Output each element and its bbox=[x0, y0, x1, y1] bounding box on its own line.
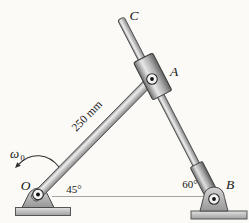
pin-o-dot bbox=[36, 193, 40, 197]
pin-a bbox=[147, 74, 158, 85]
label-point-b: B bbox=[226, 177, 234, 192]
ground-plate-b bbox=[191, 211, 247, 219]
ground-plate-o bbox=[16, 208, 71, 216]
bar-oa-group bbox=[30, 73, 158, 202]
label-point-c: C bbox=[129, 8, 139, 23]
angle-label-o: 45° bbox=[66, 183, 81, 195]
omega-label: ω bbox=[10, 146, 19, 161]
label-point-o: O bbox=[21, 178, 31, 193]
omega-subscript-label: 0 bbox=[21, 153, 25, 163]
bar-oa bbox=[30, 73, 158, 202]
pin-a-dot bbox=[150, 77, 154, 81]
pin-b-dot bbox=[212, 197, 216, 201]
pin-b bbox=[209, 194, 220, 205]
rod-bc-group bbox=[115, 15, 222, 204]
angle-label-b: 60° bbox=[182, 178, 197, 190]
pin-o bbox=[33, 189, 44, 200]
figure-canvas: C A O B 45° 60° 250 mm ω 0 bbox=[0, 0, 249, 223]
mechanism-figure: C A O B 45° 60° 250 mm ω 0 bbox=[0, 0, 249, 223]
omega-arrow-arc bbox=[19, 156, 59, 167]
label-point-a: A bbox=[169, 64, 179, 79]
